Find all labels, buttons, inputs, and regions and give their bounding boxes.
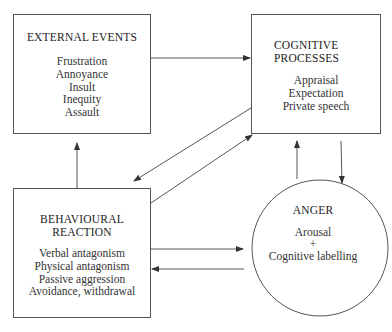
list-item: Private speech [252,100,380,113]
external-events-list: Frustration Annoyance Insult Inequity As… [56,55,108,119]
list-item: Appraisal [252,74,380,87]
behavioural-reaction-title: BEHAVIOURAL REACTION [40,213,124,239]
list-item: Assault [56,106,108,119]
list-item: Insult [56,81,108,94]
arrow-cognitive-to-behavioural [134,108,251,181]
list-item: Expectation [252,87,380,100]
arrow-behavioural-to-cognitive [151,135,252,203]
list-item: Annoyance [56,68,108,81]
list-item: Avoidance, withdrawal [29,285,135,298]
title-line: PROCESSES [274,52,380,65]
title-line: BEHAVIOURAL [40,213,124,226]
anger-node: ANGER Arousal + Cognitive labelling [243,178,383,318]
list-item: Frustration [56,55,108,68]
cognitive-processes-title: COGNITIVE PROCESSES [252,39,380,65]
cognitive-processes-box: COGNITIVE PROCESSES Appraisal Expectatio… [251,14,381,134]
list-item: + [269,238,357,250]
anger-title: ANGER [293,204,334,217]
title-line: COGNITIVE [274,39,380,52]
list-item: Physical antagonism [29,260,135,273]
list-item: Cognitive labelling [269,250,357,262]
title-line: REACTION [40,226,124,239]
arrow-cognitive-to-anger [341,141,342,183]
list-item: Inequity [56,93,108,106]
list-item: Arousal [269,226,357,238]
external-events-title: EXTERNAL EVENTS [27,31,137,44]
cognitive-processes-list: Appraisal Expectation Private speech [252,74,380,112]
list-item: Verbal antagonism [29,247,135,260]
external-events-box: EXTERNAL EVENTS Frustration Annoyance In… [13,14,151,134]
anger-list: Arousal + Cognitive labelling [269,226,357,262]
list-item: Passive aggression [29,273,135,286]
behavioural-reaction-box: BEHAVIOURAL REACTION Verbal antagonism P… [13,188,151,318]
behavioural-reaction-list: Verbal antagonism Physical antagonism Pa… [29,247,135,298]
